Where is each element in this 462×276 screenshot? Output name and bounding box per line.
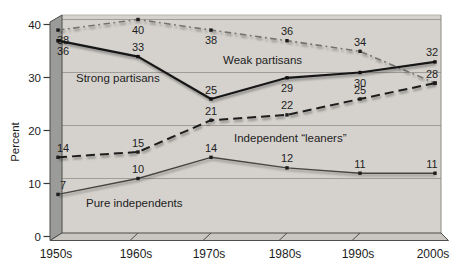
data-label-0-1990s: 34 bbox=[354, 36, 366, 48]
data-point-0-1960s bbox=[136, 18, 139, 21]
data-label-2-1980s: 12 bbox=[281, 152, 293, 164]
data-point-2-1990s bbox=[358, 172, 361, 175]
y-tick-label-20: 20 bbox=[28, 125, 41, 137]
y-tick-label-10: 10 bbox=[28, 178, 41, 190]
series-name-label-3: Strong partisans bbox=[76, 72, 160, 84]
x-tick-label-1980s: 1980s bbox=[269, 247, 302, 261]
data-label-1-1960s: 15 bbox=[132, 137, 144, 149]
data-label-0-1970s: 38 bbox=[205, 34, 217, 46]
data-label-1-1950s: 14 bbox=[57, 142, 69, 154]
data-point-0-1980s bbox=[285, 39, 288, 42]
x-tick-label-2000s: 2000s bbox=[417, 247, 450, 261]
data-point-1-1980s bbox=[285, 113, 288, 116]
data-label-3-1970s: 25 bbox=[205, 84, 217, 96]
x-tick-label-1970s: 1970s bbox=[193, 247, 226, 261]
x-tick-label-1950s: 1950s bbox=[40, 247, 73, 261]
y-axis-title: Percent bbox=[9, 121, 21, 161]
data-label-3-1950s: 36 bbox=[57, 45, 69, 57]
data-point-0-1950s bbox=[56, 28, 59, 31]
data-point-0-1970s bbox=[209, 28, 212, 31]
data-label-2-2000s: 11 bbox=[426, 158, 437, 170]
data-point-2-2000s bbox=[433, 172, 436, 175]
data-point-3-1980s bbox=[285, 76, 288, 79]
data-point-3-2000s bbox=[433, 60, 436, 63]
data-label-3-1990s: 30 bbox=[354, 77, 366, 89]
axis-floor-3d bbox=[50, 233, 449, 241]
data-point-3-1970s bbox=[209, 97, 212, 100]
data-point-1-1960s bbox=[136, 150, 139, 153]
x-tick-label-1960s: 1960s bbox=[120, 247, 153, 261]
data-point-2-1980s bbox=[285, 166, 288, 169]
data-label-1-1970s: 21 bbox=[205, 105, 217, 117]
data-point-1-1970s bbox=[209, 119, 212, 122]
data-label-2-1960s: 10 bbox=[132, 163, 144, 175]
data-label-2-1950s: 7 bbox=[60, 179, 66, 191]
data-point-3-1950s bbox=[56, 39, 59, 42]
partisanship-line-chart: 0102030401950s1960s1970s1980s1990s2000s3… bbox=[0, 0, 462, 276]
partisanship-trend-figure: 0102030401950s1960s1970s1980s1990s2000s3… bbox=[0, 0, 462, 276]
data-point-3-1960s bbox=[136, 55, 139, 58]
data-label-3-2000s: 32 bbox=[426, 46, 438, 58]
data-point-2-1960s bbox=[136, 177, 139, 180]
data-point-1-1990s bbox=[358, 97, 361, 100]
data-point-1-2000s bbox=[433, 81, 436, 84]
data-label-1-2000s: 28 bbox=[426, 68, 438, 80]
y-tick-label-0: 0 bbox=[35, 231, 41, 243]
data-point-2-1950s bbox=[56, 193, 59, 196]
data-label-2-1970s: 14 bbox=[205, 142, 217, 154]
data-label-1-1980s: 22 bbox=[281, 99, 293, 111]
data-label-0-1960s: 40 bbox=[132, 24, 144, 36]
data-label-0-1980s: 36 bbox=[281, 25, 293, 37]
data-label-2-1990s: 11 bbox=[354, 158, 365, 170]
series-name-label-2: Pure independents bbox=[86, 197, 183, 209]
series-name-label-0: Weak partisans bbox=[223, 54, 302, 66]
series-name-label-1: Independent “leaners” bbox=[234, 132, 347, 144]
data-point-1-1950s bbox=[56, 156, 59, 159]
y-tick-label-30: 30 bbox=[28, 72, 41, 84]
data-label-3-1960s: 33 bbox=[132, 41, 144, 53]
data-point-3-1990s bbox=[358, 71, 361, 74]
x-tick-label-1990s: 1990s bbox=[342, 247, 375, 261]
y-tick-label-40: 40 bbox=[28, 19, 41, 31]
data-label-3-1980s: 29 bbox=[281, 82, 293, 94]
data-point-0-1990s bbox=[358, 50, 361, 53]
data-point-2-1970s bbox=[209, 156, 212, 159]
